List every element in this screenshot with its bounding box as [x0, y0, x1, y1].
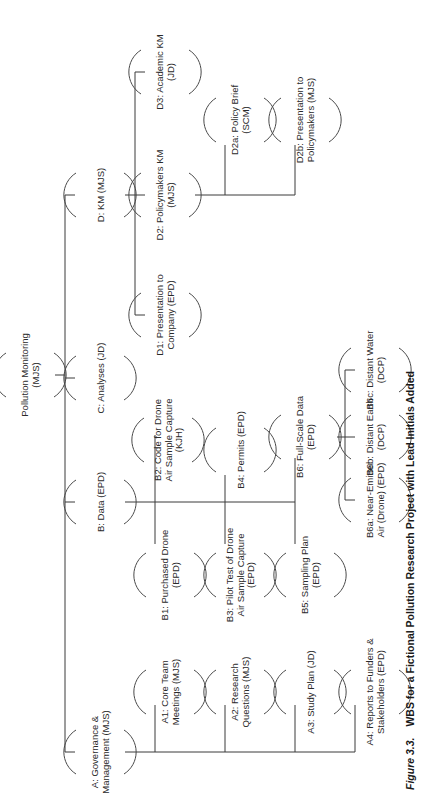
caption-label: Figure 3.3. — [404, 737, 416, 790]
wbs-node-line: D2: Policymakers KM — [154, 150, 165, 241]
node-bracket-left — [134, 553, 146, 597]
wbs-node-line: D1: Presentation to — [154, 274, 165, 355]
wbs-node-line: D2a: Policy Brief — [229, 85, 240, 156]
wbs-node-b1: B1: Purchased Drone(EPD) — [134, 530, 206, 621]
wbs-node-line: Policymakers (MJS) — [305, 78, 316, 162]
node-bracket-left — [132, 418, 144, 462]
wbs-node-label: B3: Pilot Test of DroneAir Sample Captur… — [224, 528, 256, 622]
wbs-node-label: D: KM (MJS) — [95, 168, 106, 222]
wbs-diagram: Pollution Monitoring(MJS)A: Governance &… — [0, 0, 428, 796]
wbs-node-label: A3: Study Plan (JD) — [305, 650, 316, 733]
wbs-node-line: (JD) — [165, 63, 176, 81]
wbs-node-line: B: Data (EPD) — [95, 472, 106, 532]
wbs-node-line: Air (Drone) (EPD) — [375, 463, 386, 538]
wbs-node-label: B4: Permits (EPD) — [235, 411, 246, 489]
wbs-node-line: B6: Full-Scale Data — [294, 395, 305, 478]
wbs-node-line: D3: Academic KM — [154, 34, 165, 110]
wbs-node-line: Stakeholders (EPD) — [375, 650, 386, 734]
wbs-node-line: Management (MJS) — [100, 710, 111, 793]
wbs-node-line: B3: Pilot Test of Drone — [224, 528, 235, 622]
node-bracket-right — [334, 553, 346, 597]
wbs-node-label: B6: Full-Scale Data(EPD) — [294, 395, 316, 478]
wbs-node-line: (MJS) — [30, 362, 41, 387]
wbs-node-a2: A2: ResearchQuestions (MJS) — [204, 657, 276, 728]
wbs-node-line: A2: Research — [229, 663, 240, 721]
svg-text:Figure 3.3. WBS for a Fi: Figure 3.3. WBS for a Fictional Pollutio… — [404, 371, 416, 790]
node-bracket-right — [192, 418, 204, 462]
node-bracket-right — [124, 356, 136, 400]
wbs-node-label: C: Analyses (JD) — [95, 343, 106, 414]
wbs-node-b6: B6: Full-Scale Data(EPD) — [269, 395, 341, 478]
node-bracket-left — [269, 98, 281, 142]
wbs-node-line: A: Governance & — [89, 715, 100, 788]
wbs-node-line: B1: Purchased Drone — [159, 530, 170, 621]
node-bracket-left — [204, 428, 216, 472]
wbs-node-label: A4: Reports to Funders &Stakeholders (EP… — [364, 638, 386, 746]
wbs-node-b2: B2: Code for DroneAir Sample Capture(KJH… — [132, 399, 204, 482]
wbs-node-label: A2: ResearchQuestions (MJS) — [229, 657, 251, 728]
wbs-node-b3: B3: Pilot Test of DroneAir Sample Captur… — [204, 528, 276, 622]
wbs-node-line: (KJH) — [173, 428, 184, 452]
wbs-node-line: D: KM (MJS) — [95, 168, 106, 222]
wbs-node-line: A4: Reports to Funders & — [364, 638, 375, 746]
wbs-node-label: B5: Sampling Plan(EPD) — [299, 536, 321, 614]
wbs-node-line: Meetings (MJS) — [170, 659, 181, 726]
wbs-node-line: B5: Sampling Plan — [299, 536, 310, 614]
node-bracket-left — [134, 670, 146, 714]
node-bracket-left — [204, 98, 216, 142]
wbs-nodes: Pollution Monitoring(MJS)A: Governance &… — [0, 34, 411, 794]
wbs-node-line: (EPD) — [310, 562, 321, 588]
wbs-node-line: (DCP) — [375, 424, 386, 450]
wbs-node-line: (SCM) — [240, 106, 251, 133]
wbs-node-line: Company (EPD) — [165, 280, 176, 349]
wbs-node-label: Pollution Monitoring(MJS) — [19, 333, 41, 416]
wbs-node-a4: A4: Reports to Funders &Stakeholders (EP… — [339, 638, 411, 746]
node-bracket-left — [339, 670, 351, 714]
wbs-node-line: B6c: Distant Water — [364, 331, 375, 410]
wbs-node-line: (EPD) — [305, 424, 316, 450]
wbs-node-line: (EPD) — [170, 562, 181, 588]
wbs-node-line: D2b: Presentation to — [294, 77, 305, 164]
wbs-node-line: A1: Core Team — [159, 660, 170, 723]
wbs-node-line: B4: Permits (EPD) — [235, 411, 246, 489]
wbs-node-line: Air Sample Capture — [235, 534, 246, 617]
node-bracket-right — [264, 98, 276, 142]
wbs-node-line: (EPD) — [245, 562, 256, 588]
wbs-node-label: D2a: Policy Brief(SCM) — [229, 85, 251, 156]
node-bracket-right — [189, 50, 201, 94]
wbs-node-label: D2: Policymakers KM(MJS) — [154, 150, 176, 241]
wbs-node-label: D1: Presentation toCompany (EPD) — [154, 274, 176, 355]
node-bracket-right — [189, 293, 201, 337]
wbs-node-label: D2b: Presentation toPolicymakers (MJS) — [294, 77, 316, 164]
wbs-node-line: (DCP) — [375, 357, 386, 383]
wbs-node-label: B6c: Distant Water(DCP) — [364, 331, 386, 410]
wbs-node-label: A1: Core TeamMeetings (MJS) — [159, 659, 181, 726]
wbs-node-label: B1: Purchased Drone(EPD) — [159, 530, 181, 621]
wbs-node-d2a: D2a: Policy Brief(SCM) — [204, 85, 276, 156]
wbs-node-label: B: Data (EPD) — [95, 472, 106, 532]
wbs-node-line: A3: Study Plan (JD) — [305, 650, 316, 733]
wbs-node-line: B2: Code for Drone — [152, 399, 163, 481]
wbs-node-line: Air Sample Capture — [163, 399, 174, 482]
wbs-node-line: Pollution Monitoring — [19, 333, 30, 416]
wbs-node-label: A: Governance &Management (MJS) — [89, 710, 111, 793]
wbs-node-b5: B5: Sampling Plan(EPD) — [274, 536, 346, 614]
wbs-node-line: C: Analyses (JD) — [95, 343, 106, 414]
node-bracket-left — [0, 353, 6, 397]
wbs-node-a1: A1: Core TeamMeetings (MJS) — [134, 659, 206, 726]
wbs-node-label: B2: Code for DroneAir Sample Capture(KJH… — [152, 399, 184, 482]
wbs-node-b4: B4: Permits (EPD) — [204, 411, 276, 489]
wbs-node-line: Questions (MJS) — [240, 657, 251, 728]
node-bracket-left — [269, 415, 281, 459]
wbs-node-line: (MJS) — [165, 182, 176, 207]
wbs-node-a3: A3: Study Plan (JD) — [274, 650, 346, 733]
wbs-node-d2b: D2b: Presentation toPolicymakers (MJS) — [269, 77, 341, 164]
node-bracket-right — [334, 670, 346, 714]
wbs-node-label: D3: Academic KM(JD) — [154, 34, 176, 110]
node-bracket-right — [329, 98, 341, 142]
node-bracket-right — [264, 428, 276, 472]
caption-title: WBS for a Fictional Pollution Research P… — [404, 371, 416, 727]
figure-caption: Figure 3.3. WBS for a Fictional Pollutio… — [404, 371, 416, 790]
